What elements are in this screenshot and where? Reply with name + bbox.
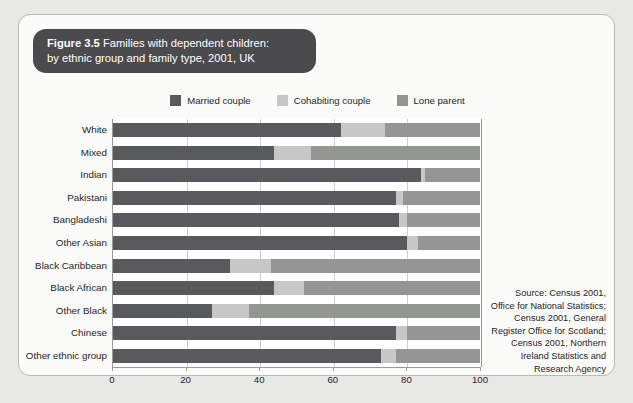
legend-swatch-icon <box>170 95 181 106</box>
x-axis-line <box>112 367 480 368</box>
legend-item[interactable]: Cohabiting couple <box>277 95 371 106</box>
bar-segment[interactable] <box>396 326 407 340</box>
figure-number: Figure 3.5 <box>47 37 100 49</box>
bar-row[interactable] <box>113 168 480 182</box>
legend-label: Married couple <box>187 95 250 106</box>
bar-row[interactable] <box>113 304 480 318</box>
bar-segment[interactable] <box>403 191 480 205</box>
figure-title-text: Families with dependent children: <box>100 37 269 49</box>
legend-label: Lone parent <box>414 95 465 106</box>
bar-segment[interactable] <box>396 191 403 205</box>
figure-subtitle-text: by ethnic group and family type, 2001, U… <box>47 52 255 64</box>
y-axis-label: White <box>21 123 107 137</box>
bar-segment[interactable] <box>385 123 480 137</box>
x-axis-tick <box>406 367 407 371</box>
bar-segment[interactable] <box>425 168 480 182</box>
x-axis-tick-label: 80 <box>401 374 412 385</box>
chart-legend: Married coupleCohabiting coupleLone pare… <box>19 95 616 106</box>
bar-segment[interactable] <box>249 304 480 318</box>
bar-row[interactable] <box>113 191 480 205</box>
x-axis-tick-label: 20 <box>180 374 191 385</box>
bar-segment[interactable] <box>113 146 274 160</box>
x-axis-tick <box>333 367 334 371</box>
bar-segment[interactable] <box>399 213 406 227</box>
bar-segment[interactable] <box>113 123 341 137</box>
bar-segment[interactable] <box>113 326 396 340</box>
x-axis-tick <box>259 367 260 371</box>
legend-swatch-icon <box>397 95 408 106</box>
legend-swatch-icon <box>277 95 288 106</box>
legend-label: Cohabiting couple <box>294 95 371 106</box>
bar-segment[interactable] <box>274 146 311 160</box>
x-axis-tick-label: 0 <box>109 374 114 385</box>
x-axis-tick-label: 100 <box>472 374 488 385</box>
x-axis-tick-label: 40 <box>254 374 265 385</box>
y-axis-label: Chinese <box>21 326 107 340</box>
y-axis-label: Indian <box>21 168 107 182</box>
bar-row[interactable] <box>113 213 480 227</box>
y-axis-label: Mixed <box>21 146 107 160</box>
bar-segment[interactable] <box>381 349 396 363</box>
plot-area <box>112 119 480 367</box>
bar-segment[interactable] <box>396 349 480 363</box>
bar-segment[interactable] <box>113 168 421 182</box>
bar-row[interactable] <box>113 123 480 137</box>
bar-segment[interactable] <box>271 259 480 273</box>
gridline <box>481 119 482 367</box>
bar-segment[interactable] <box>113 213 399 227</box>
bar-row[interactable] <box>113 236 480 250</box>
bar-segment[interactable] <box>341 123 385 137</box>
y-axis-label: Pakistani <box>21 191 107 205</box>
bar-segment[interactable] <box>274 281 303 295</box>
y-axis-label: Black African <box>21 281 107 295</box>
bar-segment[interactable] <box>113 259 230 273</box>
bar-segment[interactable] <box>230 259 270 273</box>
y-axis-label: Bangladeshi <box>21 213 107 227</box>
bar-row[interactable] <box>113 326 480 340</box>
source-note: Source: Census 2001, Office for National… <box>489 287 606 375</box>
bar-row[interactable] <box>113 259 480 273</box>
x-axis-tick <box>480 367 481 371</box>
bar-segment[interactable] <box>304 281 480 295</box>
bar-segment[interactable] <box>418 236 480 250</box>
bar-segment[interactable] <box>311 146 480 160</box>
bar-segment[interactable] <box>407 236 418 250</box>
bar-segment[interactable] <box>407 213 480 227</box>
bar-segment[interactable] <box>113 304 212 318</box>
bar-segment[interactable] <box>407 326 480 340</box>
bar-segment[interactable] <box>113 191 396 205</box>
legend-item[interactable]: Married couple <box>170 95 250 106</box>
bar-segment[interactable] <box>113 236 407 250</box>
bar-segment[interactable] <box>113 349 381 363</box>
y-axis-label: Other Asian <box>21 236 107 250</box>
bar-segment[interactable] <box>212 304 249 318</box>
bar-row[interactable] <box>113 146 480 160</box>
x-axis-tick <box>186 367 187 371</box>
figure-panel: Figure 3.5 Families with dependent child… <box>18 14 615 376</box>
x-axis-tick <box>112 367 113 371</box>
x-axis-tick-label: 60 <box>327 374 338 385</box>
legend-item[interactable]: Lone parent <box>397 95 465 106</box>
figure-title-pill: Figure 3.5 Families with dependent child… <box>33 29 316 73</box>
y-axis-label: Other Black <box>21 304 107 318</box>
y-axis-label: Other ethnic group <box>21 349 107 363</box>
bar-row[interactable] <box>113 281 480 295</box>
y-axis-label: Black Caribbean <box>21 259 107 273</box>
y-axis-labels: WhiteMixedIndianPakistaniBangladeshiOthe… <box>19 119 107 367</box>
bar-segment[interactable] <box>113 281 274 295</box>
bar-row[interactable] <box>113 349 480 363</box>
